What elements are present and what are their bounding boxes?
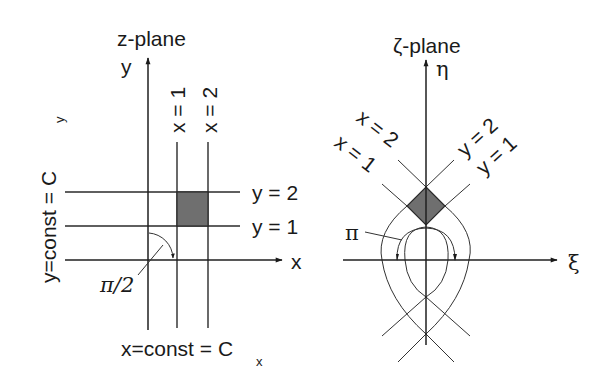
pi-leader-line — [365, 232, 402, 240]
label-y-2: y = 2 — [252, 181, 298, 204]
lower-ray-4 — [426, 334, 454, 362]
z-shaded-square — [177, 192, 208, 226]
right-angle-arc — [149, 233, 173, 258]
inner-curve-left — [405, 227, 426, 297]
inner-curve-right — [426, 227, 448, 297]
y-const-caption-sub: y — [52, 116, 67, 123]
zeta-angle-label: π — [345, 221, 359, 245]
x-axis-label: x — [291, 250, 302, 273]
xi-axis-label: ξ — [568, 251, 580, 275]
y-2-upper-ray — [426, 160, 454, 187]
lower-ray-3 — [398, 334, 426, 362]
zeta-plane-panel: ζ-plane π η ξ x = 2 x = 1 y — [331, 34, 580, 362]
z-plane-title: z-plane — [117, 27, 186, 50]
z-plane-panel: z-plane π/2 y x x = 1 x = 2 y = 2 y = 1 … — [37, 27, 302, 369]
x-1-upper-ray — [382, 184, 407, 206]
x-2-upper-ray — [398, 160, 426, 187]
label-x-2: x = 2 — [198, 87, 221, 133]
x-const-caption-sub: x — [256, 354, 263, 369]
label-x-1: x = 1 — [166, 87, 189, 133]
lower-ray-1 — [382, 297, 426, 336]
lower-ray-2 — [426, 297, 470, 336]
z-angle-label: π/2 — [99, 273, 134, 297]
outer-curve-left — [381, 206, 426, 334]
conformal-mapping-diagram: z-plane π/2 y x x = 1 x = 2 y = 2 y = 1 … — [0, 0, 607, 385]
label-y-1: y = 1 — [252, 215, 298, 238]
y-1-upper-ray — [445, 184, 470, 206]
x-const-caption-main: x=const = C — [121, 337, 233, 360]
eta-axis-label: η — [436, 57, 449, 81]
y-axis-label: y — [121, 55, 132, 78]
outer-curve-right — [426, 206, 470, 334]
y-const-caption: y=const = C y — [37, 116, 67, 283]
y-const-caption-main: y=const = C — [37, 171, 60, 283]
zeta-plane-title: ζ-plane — [393, 34, 461, 57]
